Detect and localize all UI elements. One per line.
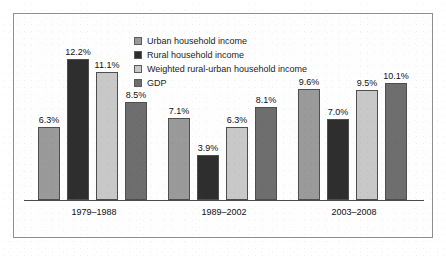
bar-rural-1989-2002 bbox=[197, 155, 219, 200]
bar-rural-2003-2008 bbox=[327, 119, 349, 200]
bar-value-label: 10.1% bbox=[383, 71, 409, 81]
bar-gdp-1989-2002 bbox=[255, 107, 277, 200]
x-axis-baseline bbox=[24, 200, 424, 201]
bar-value-label: 7.0% bbox=[328, 107, 349, 117]
bar-value-label: 9.5% bbox=[357, 78, 378, 88]
bar-weighted-1979-1988 bbox=[96, 72, 118, 200]
x-axis-tick-label-2: 1989–2002 bbox=[164, 207, 284, 217]
bar-value-label: 8.5% bbox=[126, 90, 147, 100]
bar-urban-1979-1988 bbox=[38, 127, 60, 200]
bar-value-label: 6.3% bbox=[39, 115, 60, 125]
bar-value-label: 6.3% bbox=[227, 115, 248, 125]
bar-group-1989-2002: 7.1% 3.9% 6.3% 8.1% bbox=[164, 50, 284, 200]
bar-group-1979-1988: 6.3% 12.2% 11.1% 8.5% bbox=[34, 50, 154, 200]
legend-label-urban: Urban household income bbox=[147, 36, 247, 46]
bar-value-label: 9.6% bbox=[299, 77, 320, 87]
bar-group-2003-2008: 9.6% 7.0% 9.5% 10.1% bbox=[294, 50, 414, 200]
x-axis-tick-label-1: 1979–1988 bbox=[34, 207, 154, 217]
bar-value-label: 8.1% bbox=[256, 95, 277, 105]
bar-rural-1979-1988 bbox=[67, 59, 89, 200]
x-axis-tick-label-3: 2003–2008 bbox=[294, 207, 414, 217]
figure-frame: Urban household income Rural household i… bbox=[13, 13, 433, 238]
bar-weighted-1989-2002 bbox=[226, 127, 248, 200]
bar-urban-1989-2002 bbox=[168, 118, 190, 200]
legend-item-urban-household-income: Urban household income bbox=[134, 34, 384, 47]
bar-urban-2003-2008 bbox=[298, 89, 320, 200]
bar-gdp-1979-1988 bbox=[125, 102, 147, 200]
chart-plot-area: Urban household income Rural household i… bbox=[14, 14, 434, 239]
bar-value-label: 12.2% bbox=[65, 47, 91, 57]
bar-value-label: 7.1% bbox=[169, 106, 190, 116]
bar-value-label: 11.1% bbox=[95, 60, 120, 70]
bar-gdp-2003-2008 bbox=[385, 83, 407, 200]
bar-value-label: 3.9% bbox=[198, 143, 219, 153]
bar-weighted-2003-2008 bbox=[356, 90, 378, 200]
legend-swatch-icon-urban bbox=[134, 37, 142, 45]
